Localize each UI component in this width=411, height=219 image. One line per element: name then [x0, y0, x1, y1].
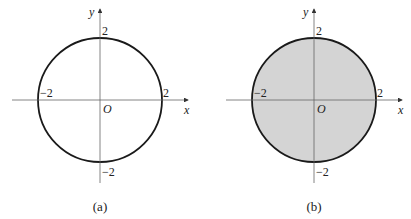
x-axis-label-b: x: [397, 103, 404, 117]
origin-label-a: O: [103, 102, 112, 116]
tick-x-neg-a: −2: [40, 86, 53, 100]
tick-y-pos-b: 2: [316, 24, 322, 38]
figure-canvas: y x O 2 −2 −2 2 (a) y x O 2 −2 −2 2 (b): [0, 0, 411, 219]
graph-b: y x O 2 −2 −2 2 (b): [226, 5, 404, 214]
tick-y-neg-b: −2: [316, 165, 329, 179]
y-axis-label-a: y: [88, 5, 95, 19]
tick-x-pos-a: 2: [163, 86, 169, 100]
tick-x-pos-b: 2: [377, 86, 383, 100]
tick-y-pos-a: 2: [102, 24, 108, 38]
tick-y-neg-a: −2: [102, 165, 115, 179]
origin-label-b: O: [317, 102, 326, 116]
tick-x-neg-b: −2: [254, 86, 267, 100]
caption-b: (b): [306, 199, 321, 214]
caption-a: (a): [93, 199, 107, 214]
graph-a: y x O 2 −2 −2 2 (a): [12, 5, 190, 214]
y-axis-label-b: y: [302, 5, 309, 19]
x-axis-label-a: x: [183, 103, 190, 117]
